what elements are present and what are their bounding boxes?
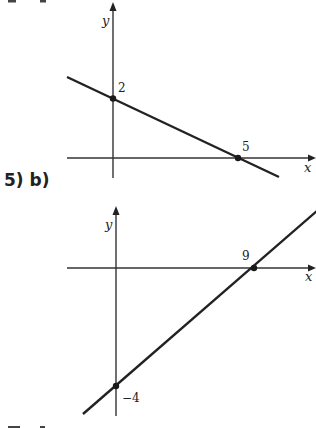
graph-b: y x 9 −4: [67, 206, 316, 416]
problem-label-a-cutoff-2: [40, 0, 46, 3]
problem-label-a-cutoff: [8, 0, 16, 3]
graph-b-point-x-intercept: [251, 265, 257, 271]
graph-a-point-y-intercept: [110, 95, 116, 101]
graph-a: y x 2 5: [67, 2, 316, 178]
graph-a-y-arrow-icon: [110, 2, 117, 11]
graph-b-x-label: x: [305, 269, 313, 284]
graph-a-x-label: x: [304, 160, 312, 175]
graph-b-y-arrow-icon: [113, 206, 120, 215]
graph-a-line: [67, 77, 279, 177]
graph-b-point-y-intercept: [113, 383, 119, 389]
graph-a-point-label-5: 5: [242, 140, 250, 154]
graph-a-point-x-intercept: [235, 155, 241, 161]
graph-b-line: [83, 210, 316, 414]
graph-b-point-label-9: 9: [242, 249, 250, 263]
graph-b-point-label-neg4: −4: [122, 391, 140, 405]
graph-a-y-label: y: [101, 13, 110, 28]
graph-b-y-label: y: [104, 217, 113, 232]
graphs-canvas: y x 2 5 y x 9 −4: [0, 0, 316, 428]
graph-a-point-label-2: 2: [118, 81, 126, 95]
